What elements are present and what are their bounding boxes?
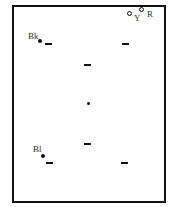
center-point <box>87 102 90 105</box>
dash-bottom-right <box>121 162 128 164</box>
dash-center-upper <box>84 64 91 66</box>
dash-center-lower <box>84 143 91 145</box>
dash-bottom-left <box>46 162 53 164</box>
yellow-ring-marker <box>127 11 132 16</box>
black-label: Bk <box>28 32 39 41</box>
blue-point <box>41 154 45 158</box>
blue-label: Bl <box>33 145 42 154</box>
dash-top-left <box>45 43 52 45</box>
dash-top-right <box>122 43 129 45</box>
red-ring-marker <box>139 7 144 12</box>
yellow-label: Y <box>134 14 141 23</box>
black-point <box>38 39 42 43</box>
red-label: R <box>147 10 153 19</box>
